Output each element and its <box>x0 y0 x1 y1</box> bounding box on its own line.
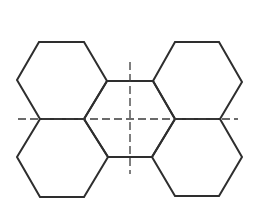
hexagon-diagram <box>0 0 261 209</box>
